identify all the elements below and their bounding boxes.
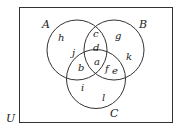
- venn-diagram: U A B C h j c d g k b a f e i l: [0, 0, 181, 131]
- region-label-j: j: [70, 47, 75, 58]
- region-label-k: k: [126, 51, 132, 62]
- region-label-f: f: [104, 63, 111, 74]
- region-label-h: h: [58, 32, 64, 43]
- region-label-c: c: [93, 28, 99, 39]
- region-label-g: g: [115, 30, 121, 41]
- region-label-b: b: [78, 62, 84, 73]
- region-label-a: a: [94, 56, 100, 67]
- region-label-e: e: [112, 65, 118, 76]
- set-c-label: C: [110, 107, 119, 120]
- set-b-label: B: [138, 18, 147, 31]
- set-a-label: A: [41, 18, 50, 31]
- region-label-l: l: [102, 92, 105, 103]
- region-label-i: i: [81, 82, 84, 93]
- universe-label: U: [6, 112, 16, 125]
- region-label-d: d: [93, 42, 99, 53]
